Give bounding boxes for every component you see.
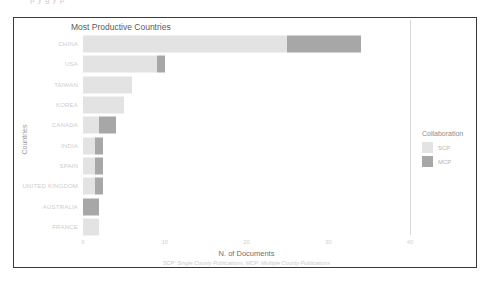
x-tick-label: 10 — [161, 239, 168, 245]
bar-row: AUSTRALIA — [83, 196, 410, 216]
bar-segment-scp[interactable] — [83, 97, 124, 114]
bar-segment-mcp[interactable] — [99, 117, 115, 134]
page-top-cropped-text: p y g y p — [0, 0, 490, 17]
legend-item[interactable]: SCP — [422, 142, 476, 153]
stacked-bar[interactable] — [83, 36, 361, 53]
stacked-bar[interactable] — [83, 178, 103, 195]
y-tick-label: INDIA — [61, 143, 78, 149]
legend: Collaboration SCPMCP — [422, 130, 476, 170]
bar-row: USA — [83, 54, 410, 74]
panel-divider — [410, 20, 411, 235]
chart-caption: SCP: Single County Publications, MCP: Mu… — [23, 260, 470, 266]
y-tick-label: UNITED KINGDOM — [23, 183, 78, 189]
bar-row: CANADA — [83, 115, 410, 135]
x-tick-label: 30 — [325, 239, 332, 245]
legend-item-label: MCP — [438, 159, 451, 165]
x-tick-label: 20 — [243, 239, 250, 245]
chart-figure-frame: Most Productive Countries Countries CHIN… — [13, 17, 477, 268]
x-axis-label: N. of Documents — [83, 249, 410, 258]
stacked-bar[interactable] — [83, 198, 99, 215]
x-tick-label: 0 — [81, 239, 84, 245]
y-tick-label: CANADA — [52, 122, 78, 128]
bar-row: TAIWAN — [83, 75, 410, 95]
y-axis-label: Countries — [21, 110, 28, 170]
stacked-bar[interactable] — [83, 218, 99, 235]
bar-row: INDIA — [83, 136, 410, 156]
stacked-bar[interactable] — [83, 56, 165, 73]
y-tick-label: SPAIN — [59, 163, 78, 169]
bar-row: CHINA — [83, 34, 410, 54]
bar-segment-scp[interactable] — [83, 56, 157, 73]
bar-segment-scp[interactable] — [83, 157, 95, 174]
bar-segment-scp[interactable] — [83, 117, 99, 134]
stacked-bar[interactable] — [83, 76, 132, 93]
stacked-bar[interactable] — [83, 117, 116, 134]
y-tick-label: CHINA — [58, 41, 78, 47]
x-axis: N. of Documents SCP: Single County Publi… — [83, 237, 410, 267]
y-tick-label: AUSTRALIA — [43, 204, 78, 210]
legend-item[interactable]: MCP — [422, 156, 476, 167]
legend-swatch-mcp — [422, 156, 433, 167]
chart-title: Most Productive Countries — [71, 22, 171, 32]
bar-row: FRANCE — [83, 217, 410, 237]
bar-segment-scp[interactable] — [83, 178, 95, 195]
chart-plot-area: Most Productive Countries Countries CHIN… — [14, 18, 476, 267]
y-tick-label: USA — [65, 61, 78, 67]
bar-row: SPAIN — [83, 156, 410, 176]
cropped-text-line: p y g y p — [30, 0, 65, 4]
bar-segment-scp[interactable] — [83, 218, 99, 235]
stacked-bar[interactable] — [83, 137, 103, 154]
x-tick-label: 40 — [407, 239, 414, 245]
bar-segment-mcp[interactable] — [157, 56, 165, 73]
y-tick-label: TAIWAN — [54, 82, 78, 88]
y-tick-label: FRANCE — [52, 224, 78, 230]
bar-segment-mcp[interactable] — [83, 198, 99, 215]
legend-item-label: SCP — [438, 145, 450, 151]
legend-title: Collaboration — [422, 130, 476, 137]
bar-segment-scp[interactable] — [83, 137, 95, 154]
stacked-bar[interactable] — [83, 157, 103, 174]
bars-panel: CHINAUSATAIWANKOREACANADAINDIASPAINUNITE… — [83, 34, 410, 237]
bar-segment-mcp[interactable] — [95, 157, 103, 174]
bar-segment-scp[interactable] — [83, 76, 132, 93]
bar-row: KOREA — [83, 95, 410, 115]
bar-row: UNITED KINGDOM — [83, 176, 410, 196]
y-tick-label: KOREA — [56, 102, 78, 108]
bar-segment-mcp[interactable] — [95, 137, 103, 154]
bar-segment-mcp[interactable] — [287, 36, 361, 53]
legend-swatch-scp — [422, 142, 433, 153]
bar-segment-mcp[interactable] — [95, 178, 103, 195]
bar-segment-scp[interactable] — [83, 36, 287, 53]
stacked-bar[interactable] — [83, 97, 124, 114]
